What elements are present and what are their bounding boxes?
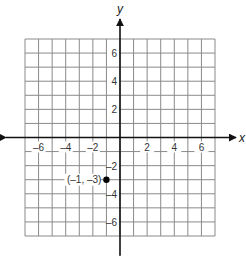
y-tick-label: –6 [106,217,118,228]
x-tick-label: –4 [60,142,72,153]
x-tick-label: 6 [199,142,205,153]
x-axis-label: x [238,131,246,145]
y-tick-label: 6 [111,48,117,59]
x-tick-label: –6 [33,142,45,153]
y-tick-label: –4 [106,189,118,200]
y-axis-label: y [116,2,124,16]
data-point [103,177,109,183]
point-label: (–1, –3) [67,174,101,185]
y-tick-label: –2 [106,161,118,172]
y-tick-label: 4 [111,76,117,87]
x-tick-label: –2 [87,142,99,153]
coordinate-plane: x y –6–4–2246642–2–4–6 (–1, –3) [0,0,246,256]
x-tick-label: 4 [172,142,178,153]
axes: x y [6,2,246,255]
y-tick-label: 2 [111,104,117,115]
x-tick-label: 2 [144,142,150,153]
